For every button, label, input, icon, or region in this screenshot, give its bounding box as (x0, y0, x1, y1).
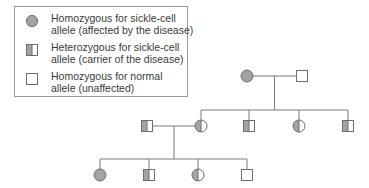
gen2-spouse-male-carrier (142, 121, 153, 132)
gen3-female-carrier (192, 169, 204, 181)
gen2-female-carrier-2 (293, 120, 305, 132)
gen2-male-carrier-2 (343, 121, 354, 132)
gen3-male-unaffected (242, 170, 253, 181)
gen2-lines (100, 126, 247, 169)
gen3-female-affected (94, 169, 106, 181)
gen1-female-affected (241, 70, 253, 82)
gen2-female-carrier-1 (195, 120, 207, 132)
gen2-male-carrier-1 (244, 121, 255, 132)
gen1-lines (201, 76, 348, 120)
pedigree-chart (0, 0, 369, 188)
gen1-male-unaffected (297, 71, 308, 82)
gen3-male-carrier (144, 170, 155, 181)
